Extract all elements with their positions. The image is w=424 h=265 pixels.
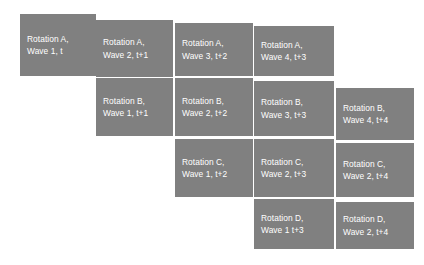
rotation-label: Rotation B, bbox=[343, 102, 385, 114]
rotation-cell-a-wave-3: Rotation A,Wave 3, t+2 bbox=[175, 23, 253, 76]
rotation-cell-a-wave-2: Rotation A,Wave 2, t+1 bbox=[96, 20, 173, 77]
rotation-label: Rotation B, bbox=[182, 95, 224, 107]
rotation-label: Rotation A, bbox=[103, 36, 145, 48]
wave-time-label: Wave 1, t bbox=[27, 45, 63, 57]
rotation-cell-d-wave-1: Rotation D,Wave 1 t+3 bbox=[254, 199, 334, 249]
rotation-cell-b-wave-3: Rotation B,Wave 3, t+3 bbox=[254, 81, 334, 136]
rotation-cell-a-wave-4: Rotation A,Wave 4, t+3 bbox=[254, 26, 334, 76]
wave-time-label: Wave 2, t+1 bbox=[103, 49, 148, 61]
wave-time-label: Wave 2, t+2 bbox=[182, 107, 227, 119]
rotation-cell-d-wave-2: Rotation D,Wave 2, t+4 bbox=[336, 202, 414, 249]
rotation-label: Rotation B, bbox=[261, 96, 303, 108]
rotation-label: Rotation C, bbox=[343, 158, 385, 170]
rotation-label: Rotation A, bbox=[27, 33, 69, 45]
wave-time-label: Wave 2, t+4 bbox=[343, 170, 388, 182]
wave-time-label: Wave 1, t+1 bbox=[103, 107, 148, 119]
rotation-label: Rotation C, bbox=[182, 156, 224, 168]
wave-time-label: Wave 4, t+3 bbox=[261, 51, 306, 63]
rotation-label: Rotation B, bbox=[103, 95, 145, 107]
wave-time-label: Wave 4, t+4 bbox=[343, 114, 388, 126]
rotation-label: Rotation D, bbox=[261, 212, 303, 224]
rotation-cell-b-wave-4: Rotation B,Wave 4, t+4 bbox=[336, 88, 414, 140]
rotation-cell-a-wave-1: Rotation A,Wave 1, t bbox=[20, 14, 96, 76]
wave-time-label: Wave 1, t+2 bbox=[182, 168, 227, 180]
wave-time-label: Wave 1 t+3 bbox=[261, 224, 304, 236]
rotation-label: Rotation A, bbox=[261, 39, 303, 51]
rotation-cell-c-wave-2: Rotation C,Wave 2, t+3 bbox=[254, 139, 334, 197]
wave-time-label: Wave 2, t+3 bbox=[261, 168, 306, 180]
wave-time-label: Wave 2, t+4 bbox=[343, 226, 388, 238]
rotation-cell-b-wave-2: Rotation B,Wave 2, t+2 bbox=[175, 78, 253, 136]
rotation-cell-c-wave-2: Rotation C,Wave 2, t+4 bbox=[336, 143, 414, 197]
rotation-label: Rotation D, bbox=[343, 213, 385, 225]
rotation-label: Rotation C, bbox=[261, 156, 303, 168]
rotation-wave-staircase-diagram: Rotation A,Wave 1, tRotation A,Wave 2, t… bbox=[0, 0, 424, 265]
rotation-label: Rotation A, bbox=[182, 37, 224, 49]
wave-time-label: Wave 3, t+2 bbox=[182, 50, 227, 62]
wave-time-label: Wave 3, t+3 bbox=[261, 109, 306, 121]
rotation-cell-b-wave-1: Rotation B,Wave 1, t+1 bbox=[96, 78, 173, 136]
rotation-cell-c-wave-1: Rotation C,Wave 1, t+2 bbox=[175, 139, 253, 197]
